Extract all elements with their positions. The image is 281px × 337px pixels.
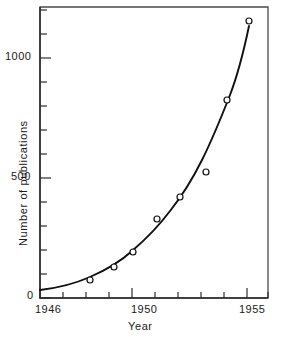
x-tick-label-1955: 1955	[239, 303, 265, 315]
axes-frame	[40, 7, 268, 298]
data-point	[154, 216, 160, 222]
y-axis-title: Number of publications	[17, 120, 29, 246]
data-point	[224, 97, 230, 103]
publications-vs-year-chart	[0, 0, 281, 337]
data-point	[111, 264, 117, 270]
x-tick-label-1946: 1946	[35, 303, 61, 315]
trend-curve	[40, 26, 249, 290]
chart-figure: 1946 1950 1955 0 500 1000 Year Number of…	[0, 0, 281, 337]
y-axis-ticks	[40, 10, 51, 298]
x-axis-ticks	[40, 288, 268, 298]
data-point	[87, 277, 93, 283]
data-point	[177, 194, 183, 200]
primary-spines	[40, 7, 268, 298]
data-point	[203, 169, 209, 175]
y-tick-label-1000: 1000	[5, 50, 31, 62]
data-point	[246, 18, 252, 24]
y-tick-label-0: 0	[27, 289, 34, 301]
data-point	[130, 249, 136, 255]
plot-border	[40, 7, 268, 298]
data-markers	[87, 18, 252, 283]
x-axis-title: Year	[128, 320, 153, 332]
x-tick-label-1950: 1950	[131, 303, 157, 315]
